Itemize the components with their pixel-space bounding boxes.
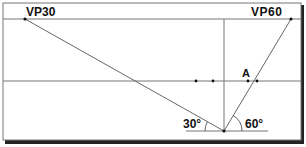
angle-60-label: 60° <box>245 117 263 131</box>
perspective-diagram: VP30 VP60 A 30° 60° <box>0 0 306 147</box>
measure-dot <box>195 80 198 83</box>
angle-30-label: 30° <box>183 117 201 131</box>
measure-dot <box>212 80 215 83</box>
vp30-label: VP30 <box>26 5 56 19</box>
station-point <box>222 129 225 132</box>
vp60-label: VP60 <box>251 5 282 19</box>
point-a-label: A <box>242 67 250 79</box>
point-a <box>247 80 250 83</box>
measure-dot <box>256 80 259 83</box>
vp60-point <box>289 17 292 20</box>
